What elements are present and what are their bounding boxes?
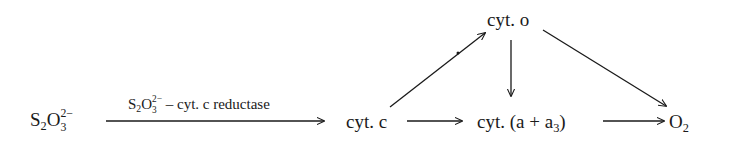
thiosulfate-charge: 2−3 <box>60 110 73 134</box>
arrow-cyt-o-to-oxygen <box>543 30 666 106</box>
enzyme-label-o: O <box>141 96 152 112</box>
thiosulfate-o: O <box>47 109 61 130</box>
node-cyt-aa3: cyt. (a + a3) <box>477 112 566 131</box>
node-thiosulfate: S2O2−3 <box>30 110 73 134</box>
oxygen-sub: 2 <box>683 121 689 135</box>
enzyme-label-charge: 2−3 <box>152 96 162 115</box>
arrow-midpoint-dot <box>457 52 460 55</box>
enzyme-label-text: – cyt. c reductase <box>162 96 270 112</box>
thiosulfate-s: S <box>30 109 41 130</box>
enzyme-label-sub-2: 2 <box>136 103 141 114</box>
enzyme-label-sub-3: 3 <box>152 106 162 115</box>
thiosulfate-sub-3: 3 <box>60 122 73 134</box>
cyt-aa3-sub: 3 <box>553 121 559 135</box>
thiosulfate-sup: 2− <box>60 108 73 120</box>
node-cyt-o: cyt. o <box>487 10 529 29</box>
arrow-cyt-c-to-cyt-o <box>390 33 485 107</box>
thiosulfate-sub-2: 2 <box>41 119 47 133</box>
node-oxygen: O2 <box>669 112 689 131</box>
enzyme-label-sup: 2− <box>152 95 162 104</box>
enzyme-label: S2O2−3 – cyt. c reductase <box>128 96 270 115</box>
node-cyt-c: cyt. c <box>346 112 387 131</box>
cyt-aa3-prefix: cyt. (a + a <box>477 111 553 132</box>
oxygen-o: O <box>669 111 683 132</box>
cyt-aa3-suffix: ) <box>559 111 565 132</box>
